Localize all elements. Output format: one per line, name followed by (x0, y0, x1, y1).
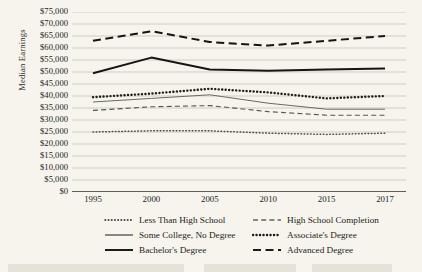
y-tick-label: $75,000 (2, 7, 68, 16)
legend-line-swatch (252, 230, 282, 240)
plot-svg (72, 12, 406, 192)
y-tick-label: $45,000 (2, 79, 68, 88)
x-tick-label: 2000 (143, 194, 161, 204)
clipped-caption-text (8, 264, 408, 272)
y-tick-label: $10,000 (2, 163, 68, 172)
legend-item[interactable]: Some College, No Degree (104, 230, 252, 240)
legend-item[interactable]: Bachelor's Degree (104, 245, 252, 255)
y-axis-tick-labels: $75,000$70,000$65,000$60,000$55,000$50,0… (0, 12, 68, 192)
y-tick-label: $0 (2, 187, 68, 196)
x-tick-label: 1995 (84, 194, 102, 204)
y-tick-label: $55,000 (2, 55, 68, 64)
x-axis-tick-labels: 199520002005201020152017 (72, 194, 406, 210)
y-tick-label: $35,000 (2, 103, 68, 112)
series-line (93, 89, 385, 99)
series-line (93, 131, 385, 135)
y-tick-label: $65,000 (2, 31, 68, 40)
legend-item[interactable]: Advanced Degree (252, 245, 404, 255)
y-tick-label: $40,000 (2, 91, 68, 100)
legend-line-swatch (104, 245, 134, 255)
y-tick-label: $70,000 (2, 19, 68, 28)
legend-label: Associate's Degree (287, 230, 357, 240)
x-tick-label: 2017 (376, 194, 394, 204)
legend-line-swatch (104, 215, 134, 225)
y-tick-label: $30,000 (2, 115, 68, 124)
legend-item[interactable]: Less Than High School (104, 215, 252, 225)
legend-label: High School Completion (287, 215, 379, 225)
legend-line-swatch (104, 230, 134, 240)
y-tick-label: $15,000 (2, 151, 68, 160)
legend-label: Some College, No Degree (139, 230, 235, 240)
legend-label: Bachelor's Degree (139, 245, 206, 255)
legend-line-swatch (252, 245, 282, 255)
y-tick-label: $5,000 (2, 175, 68, 184)
x-tick-label: 2005 (201, 194, 219, 204)
series-line (93, 31, 385, 45)
earnings-by-education-line-chart: Median Earnings $75,000$70,000$65,000$60… (0, 0, 422, 272)
legend-label: Advanced Degree (287, 245, 353, 255)
x-tick-label: 2010 (259, 194, 277, 204)
y-tick-label: $20,000 (2, 139, 68, 148)
legend-label: Less Than High School (139, 215, 225, 225)
plot-area (72, 12, 406, 192)
legend-line-swatch (252, 215, 282, 225)
y-tick-label: $50,000 (2, 67, 68, 76)
legend-item[interactable]: Associate's Degree (252, 230, 404, 240)
x-tick-label: 2015 (318, 194, 336, 204)
series-line (93, 106, 385, 116)
y-tick-label: $25,000 (2, 127, 68, 136)
chart-legend: Less Than High SchoolHigh School Complet… (104, 212, 404, 257)
y-tick-label: $60,000 (2, 43, 68, 52)
legend-item[interactable]: High School Completion (252, 215, 404, 225)
